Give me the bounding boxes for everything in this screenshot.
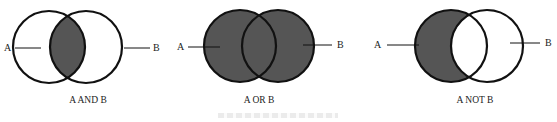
venn-diagrams: A B A AND B A B A OR B A B A NOT B [0, 0, 557, 122]
label-a: A [374, 39, 382, 50]
caption-and: A AND B [69, 95, 106, 105]
label-a: A [4, 42, 12, 53]
label-b: B [153, 42, 160, 53]
caption-not: A NOT B [457, 95, 494, 105]
caption-or: A OR B [244, 95, 275, 105]
label-b: B [337, 39, 344, 50]
label-a: A [177, 41, 185, 52]
venn-or: A B A OR B [177, 10, 344, 105]
venn-and: A B A AND B [4, 11, 160, 105]
faded-figure-caption [218, 113, 338, 118]
label-b: B [545, 37, 552, 48]
venn-not: A B A NOT B [374, 10, 552, 105]
